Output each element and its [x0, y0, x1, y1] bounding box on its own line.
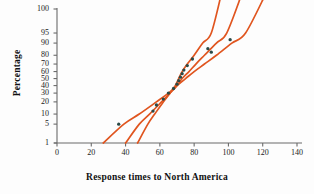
- x-tick-label: 80: [184, 148, 204, 157]
- x-tick-label: 140: [287, 148, 307, 157]
- x-tick-label: 120: [253, 148, 273, 157]
- data-point: [172, 87, 175, 90]
- data-point: [179, 76, 182, 79]
- data-point: [162, 97, 165, 100]
- y-tick-label: 70: [29, 59, 49, 68]
- y-tick-label: 5: [29, 119, 49, 128]
- x-axis-title: Response times to North America: [0, 172, 314, 182]
- y-tick-label: 100: [29, 4, 49, 13]
- data-point: [167, 91, 170, 94]
- y-tick-label: 90: [29, 38, 49, 47]
- y-tick-label: 80: [29, 50, 49, 59]
- data-point: [177, 79, 180, 82]
- axes: [54, 8, 303, 147]
- data-point: [180, 72, 183, 75]
- data-point: [186, 64, 189, 67]
- data-point: [191, 57, 194, 60]
- data-point: [228, 38, 231, 41]
- y-tick-label: 20: [29, 97, 49, 106]
- data-point: [206, 47, 209, 50]
- data-point: [151, 109, 154, 112]
- data-point: [182, 68, 185, 71]
- probability-plot-chart: 1510203040506070809095100 02040608010012…: [0, 0, 314, 194]
- data-point: [210, 51, 213, 54]
- y-tick-label: 95: [29, 28, 49, 37]
- x-tick-label: 20: [81, 148, 101, 157]
- y-axis-title: Percentage: [12, 33, 22, 113]
- data-point: [175, 83, 178, 86]
- lower-confidence-band: [138, 0, 222, 143]
- data-point: [155, 103, 158, 106]
- data-points: [117, 38, 232, 126]
- x-tick-label: 100: [218, 148, 238, 157]
- x-tick-label: 40: [116, 148, 136, 157]
- x-tick-label: 0: [47, 148, 67, 157]
- data-point: [117, 122, 120, 125]
- y-tick-label: 1: [29, 138, 49, 147]
- x-tick-label: 60: [150, 148, 170, 157]
- y-tick-label: 10: [29, 109, 49, 118]
